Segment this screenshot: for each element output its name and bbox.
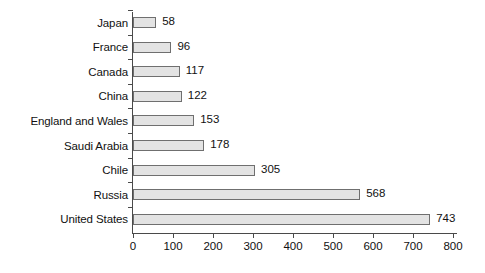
y-axis-tick: [128, 158, 133, 159]
x-axis-tick: [133, 234, 134, 238]
bar: [133, 165, 255, 176]
bar-value-label: 122: [188, 89, 207, 102]
category-label: England and Wales: [30, 115, 128, 127]
bar-row: 153: [133, 115, 254, 126]
bar-row: 178: [133, 140, 264, 151]
bar: [133, 214, 430, 225]
y-axis-tick: [128, 207, 133, 208]
category-label: China: [98, 90, 128, 102]
category-label: United States: [60, 213, 128, 225]
bar: [133, 66, 180, 77]
bar-value-label: 178: [210, 138, 229, 151]
category-label: Japan: [97, 17, 128, 29]
bar-value-label: 568: [366, 187, 385, 200]
bar-value-label: 305: [261, 163, 280, 176]
x-axis-tick-label: 700: [403, 240, 422, 253]
bar-row: 305: [133, 165, 315, 176]
x-axis-tick-label: 600: [363, 240, 382, 253]
x-axis-tick: [293, 234, 294, 238]
x-axis-tick: [253, 234, 254, 238]
bar: [133, 140, 204, 151]
category-label: Chile: [102, 164, 128, 176]
x-axis-tick-label: 200: [203, 240, 222, 253]
category-label: France: [93, 41, 128, 53]
x-axis-tick: [213, 234, 214, 238]
category-label: Russia: [93, 189, 128, 201]
bar-row: 568: [133, 189, 420, 200]
bar-value-label: 153: [200, 113, 219, 126]
y-axis-tick: [128, 59, 133, 60]
y-axis-tick: [128, 84, 133, 85]
x-axis-tick: [333, 234, 334, 238]
x-axis-tick-label: 400: [283, 240, 302, 253]
bar: [133, 91, 182, 102]
y-axis-tick: [128, 35, 133, 36]
bar: [133, 115, 194, 126]
category-label: Saudi Arabia: [64, 140, 128, 152]
category-axis-labels: JapanFranceCanadaChinaEngland and WalesS…: [0, 0, 128, 273]
x-axis-tick-label: 300: [243, 240, 262, 253]
bar-value-label: 743: [436, 212, 455, 225]
bar-chart: JapanFranceCanadaChinaEngland and WalesS…: [0, 0, 485, 273]
bar-row: 122: [133, 91, 242, 102]
bar-value-label: 117: [186, 64, 204, 77]
category-label: Canada: [88, 66, 128, 78]
x-axis-tick-label: 0: [130, 240, 136, 253]
y-axis-tick: [128, 108, 133, 109]
bar-value-label: 58: [162, 15, 175, 28]
bar-row: 117: [133, 66, 240, 77]
bar-row: 58: [133, 17, 216, 28]
bar-value-label: 96: [177, 40, 190, 53]
bar-row: 96: [133, 42, 231, 53]
x-axis-tick: [453, 234, 454, 238]
x-axis-line: [132, 233, 457, 234]
bar: [133, 189, 360, 200]
bar: [133, 42, 171, 53]
x-axis-tick: [173, 234, 174, 238]
y-axis-tick: [128, 133, 133, 134]
x-axis-tick-label: 500: [323, 240, 342, 253]
bar: [133, 17, 156, 28]
bar-row: 743: [133, 214, 485, 225]
x-axis-tick-label: 100: [163, 240, 182, 253]
x-axis-tick: [373, 234, 374, 238]
x-axis-tick: [413, 234, 414, 238]
y-axis-tick: [128, 182, 133, 183]
plot-area: 5896117122153178305568743: [133, 12, 463, 233]
x-axis-tick-label: 800: [443, 240, 462, 253]
y-axis-tick: [128, 10, 133, 11]
